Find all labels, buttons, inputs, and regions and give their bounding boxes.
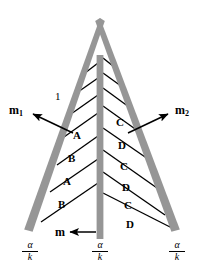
left-leg-beam [24,18,105,232]
left-rung-group [41,63,98,222]
left-rung [41,183,98,222]
right-leg-beam [95,18,180,232]
left-rung [50,159,98,192]
figure-root: 1 A B A B C D C D C D m1 m2 m α k α k α … [0,0,201,275]
center-trunk-beam [97,55,104,239]
beam-group [24,18,180,239]
diagram-canvas [0,0,201,275]
